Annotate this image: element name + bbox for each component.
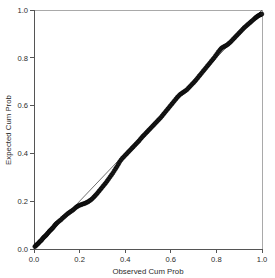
normal-pp-plot: 0.00.20.40.60.81.0 0.00.20.40.60.81.0 Ob… bbox=[0, 0, 275, 278]
y-tick-label: 0.4 bbox=[17, 149, 28, 158]
data-point-markers bbox=[33, 12, 264, 249]
data-point bbox=[260, 12, 264, 16]
x-tick-label: 1.0 bbox=[257, 255, 268, 264]
y-tick-label: 0.6 bbox=[17, 101, 28, 110]
y-tick-label: 0.8 bbox=[17, 54, 28, 63]
plot-svg: 0.00.20.40.60.81.0 0.00.20.40.60.81.0 Ob… bbox=[0, 0, 275, 278]
y-axis-title: Expected Cum Prob bbox=[4, 94, 13, 164]
y-tick-label: 0.0 bbox=[17, 245, 28, 254]
x-tick-label: 0.6 bbox=[166, 255, 177, 264]
y-axis-ticks: 0.00.20.40.60.81.0 bbox=[17, 6, 34, 254]
x-axis-title: Observed Cum Prob bbox=[112, 267, 184, 276]
y-tick-label: 0.2 bbox=[17, 197, 28, 206]
x-axis-ticks: 0.00.20.40.60.81.0 bbox=[29, 249, 268, 264]
x-tick-label: 0.2 bbox=[74, 255, 85, 264]
x-tick-label: 0.8 bbox=[211, 255, 222, 264]
x-tick-label: 0.4 bbox=[120, 255, 131, 264]
y-tick-label: 1.0 bbox=[17, 6, 28, 15]
x-tick-label: 0.0 bbox=[29, 255, 40, 264]
